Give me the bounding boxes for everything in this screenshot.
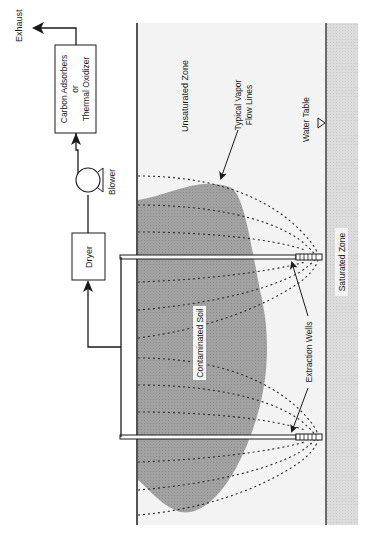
contaminated-soil-label: Contaminated Soil xyxy=(195,308,205,378)
sve-diagram: Exhaust Carbon Adsorbers or Thermal Oxid… xyxy=(0,0,374,540)
vapor-lines-label-1: Typical Vapor xyxy=(233,79,243,130)
exhaust-label: Exhaust xyxy=(14,9,24,42)
dryer-label: Dryer xyxy=(84,246,94,268)
extraction-well-1 xyxy=(120,254,322,260)
vapor-lines-label-2: Flow Lines xyxy=(244,85,254,126)
blower-label: Blower xyxy=(107,169,117,195)
treatment-label-3: Thermal Oxidizer xyxy=(81,56,91,121)
saturated-zone-label: Saturated Zone xyxy=(337,232,347,291)
treatment-label-2: or xyxy=(70,85,80,93)
extraction-wells-label: Extraction Wells xyxy=(304,322,314,383)
water-table-label: Water Table xyxy=(301,97,311,142)
treatment-label-1: Carbon Adsorbers xyxy=(59,55,69,124)
blower-fan-icon xyxy=(76,168,103,192)
unsaturated-zone-label: Unsaturated Zone xyxy=(180,60,190,132)
extraction-well-2 xyxy=(120,434,322,440)
